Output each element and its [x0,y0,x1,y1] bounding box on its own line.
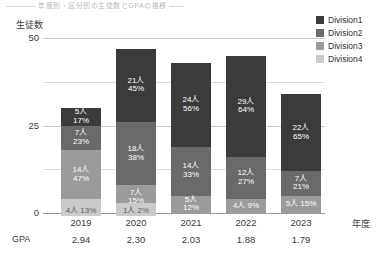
bar-segment[interactable]: 4人 9% [226,199,266,213]
segment-percent-label: 64% [238,106,254,115]
x-axis-year: 2021 [161,217,221,228]
gridline-major [43,38,325,39]
x-axis-year: 2022 [216,217,276,228]
segment-percent-label: 23% [73,138,89,147]
segment-percent-label: 47% [73,175,89,184]
y-axis-tick: 50 [0,32,39,43]
x-axis-title: 年度 [352,217,370,230]
gpa-value: 1.88 [216,234,276,245]
legend-item[interactable]: Division4 [316,53,386,65]
bar-stack[interactable]: 21人45%18人38%7人15% [116,49,156,214]
chart-root: ―――― 年度別・区分別の生徒数とGPAの推移 ―― 生徒数 Division1… [0,0,388,258]
bar-segment[interactable]: 5人 15% [281,196,321,214]
bar-segment[interactable]: 29人64% [226,56,266,158]
segment-percent-label: 38% [128,154,144,163]
segment-percent-label: 12% [183,204,199,213]
segment-count-label: 4人 9% [233,202,259,211]
segment-percent-label: 27% [238,178,254,187]
bar-segment[interactable]: 21人45% [116,49,156,123]
segment-count-label: 5人 15% [286,200,317,209]
legend-swatch-icon [316,42,324,50]
bar-segment[interactable]: 22人65% [281,94,321,171]
x-axis-year: 2019 [51,217,111,228]
division4-label: 4人 13% [61,203,101,216]
division4-label: 1人 2% [116,203,156,216]
gpa-value: 2.94 [51,234,111,245]
gpa-row-title: GPA [12,234,30,244]
bar-stack[interactable]: 29人64%12人27%4人 9% [226,56,266,214]
legend-label: Division4 [328,54,363,64]
legend-swatch-icon [316,29,324,37]
bar-segment[interactable]: 14人33% [171,147,211,196]
gpa-value: 2.30 [106,234,166,245]
bar-segment[interactable]: 14人47% [61,150,101,199]
gpa-value: 2.03 [161,234,221,245]
bar-segment[interactable]: 5人17% [61,108,101,126]
segment-percent-label: 45% [128,85,144,94]
legend-swatch-icon [316,55,324,63]
y-axis-tick: 25 [0,120,39,131]
bar-segment[interactable]: 7人21% [281,171,321,196]
x-axis-labels: 20192.9420202.3020212.0320221.8820231.79… [0,0,388,30]
y-axis-tick: 0 [0,207,39,218]
legend-item[interactable]: Division3 [316,40,386,52]
segment-percent-label: 17% [73,117,89,126]
gpa-value: 1.79 [271,234,331,245]
bar-stack[interactable]: 24人56%14人33%5人12% [171,63,211,214]
x-axis-year: 2020 [106,217,166,228]
bar-segment[interactable]: 18人38% [116,122,156,185]
segment-percent-label: 56% [183,105,199,114]
legend-label: Division3 [328,41,363,51]
x-axis-year: 2023 [271,217,331,228]
segment-percent-label: 21% [293,183,309,192]
plot-area: 025505人17%7人23%14人47%21人45%18人38%7人15%24… [55,30,313,220]
bar-segment[interactable]: 12人27% [226,157,266,199]
bar-segment[interactable]: 7人23% [61,126,101,151]
bar-segment[interactable]: 24人56% [171,63,211,147]
segment-percent-label: 33% [183,171,199,180]
segment-percent-label: 65% [293,133,309,142]
bar-stack[interactable]: 5人17%7人23%14人47% [61,108,101,213]
bar-segment[interactable]: 5人12% [171,196,211,214]
bar-stack[interactable]: 22人65%7人21%5人 15% [281,94,321,213]
